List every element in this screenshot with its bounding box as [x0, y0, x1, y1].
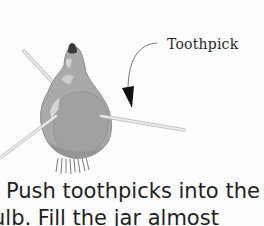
toothpick-upper-left: [24, 51, 56, 86]
bulb-tip: [68, 43, 77, 54]
toothpick-right: [101, 116, 184, 130]
bulb-roots: [56, 157, 89, 174]
curved-arrow-icon: [122, 43, 157, 108]
bulb: [41, 43, 112, 158]
instruction-line-1: Push toothpicks into the: [6, 179, 260, 203]
instruction-page: Toothpick Push toothpicks into the ulb. …: [0, 0, 264, 226]
instruction-line-2: ulb. Fill the jar almost: [0, 205, 260, 226]
instruction-text: Push toothpicks into the ulb. Fill the j…: [6, 178, 260, 226]
bulb-illustration: [0, 0, 264, 180]
toothpick-callout-label: Toothpick: [167, 36, 238, 52]
